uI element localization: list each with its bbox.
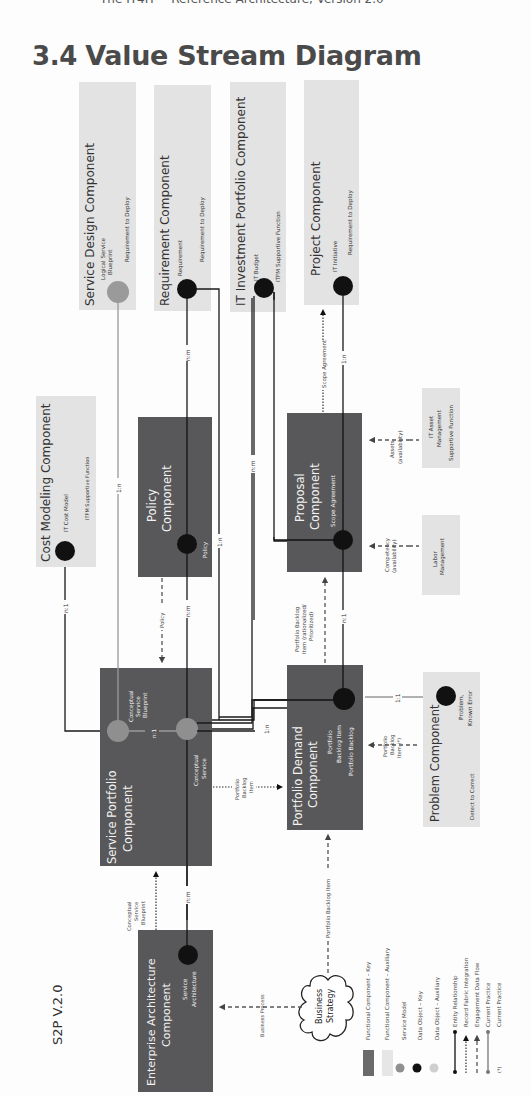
backlog-item-l3: Item — [248, 781, 254, 793]
labor-management-component: Labor Management — [422, 515, 460, 595]
ea-object-l1: Service — [182, 978, 188, 1000]
project-object: IT Initiative — [332, 240, 338, 272]
rel-requirement-policy: n:m — [184, 349, 191, 361]
enterprise-architecture-component[interactable]: Enterprise Architecture Component Servic… — [138, 930, 213, 1092]
it-asset-management-component: IT Asset Management Supportive Function — [422, 388, 460, 468]
problem-value-stream: Detect to Correct — [469, 774, 475, 821]
legend-label-6: Record Fabric Integration — [463, 957, 470, 1027]
portfolio-demand-title-l2: Component — [306, 741, 320, 808]
scope-agreement-node — [333, 530, 353, 550]
it-investment-value-stream: ITFM Supportive Function — [275, 211, 282, 282]
rel-policy: n:m — [184, 605, 191, 617]
legend-functional-aux-swatch — [382, 1050, 393, 1076]
service-portfolio-title-l2: Component — [121, 785, 135, 852]
legend-label-1: Functional Component – Auxiliary — [384, 947, 391, 1040]
requirement-node — [177, 279, 197, 299]
strategy-backlog-label: Portfolio Backlog Item — [325, 879, 332, 938]
rel-service-design: 1:n — [115, 483, 122, 493]
it-investment-title: IT Investment Portfolio Component — [234, 96, 248, 306]
service-design-component: Service Design Component Logical Service… — [79, 82, 136, 310]
pd-object-l1: Portfolio — [327, 730, 333, 754]
legend-service-model-swatch — [396, 1064, 405, 1073]
conceptual-service-blueprint-node — [107, 720, 129, 742]
policy-flow: Policy — [157, 578, 167, 660]
assets-label-l1: Assets — [389, 440, 395, 458]
legend-label-3: Data Object – Key — [417, 990, 424, 1040]
logical-service-blueprint-node — [107, 281, 129, 303]
policy-title-l2: Component — [160, 465, 174, 532]
cost-modeling-component: Cost Modeling Component IT Cost Model IT… — [36, 396, 96, 567]
cost-modeling-object: IT Cost Model — [63, 494, 69, 532]
scope-agreement-flow: Scope Agreement — [319, 312, 328, 412]
competency-label-l1: Competency — [384, 537, 391, 572]
legend-asterisk: (*) — [496, 1067, 502, 1073]
legend-label-2: Service Model — [401, 1001, 407, 1040]
problem-component: Problem Component Problem, Known Error D… — [423, 672, 480, 827]
it-initiative-node — [333, 276, 353, 296]
pd-object-l2: Backlog Item — [336, 725, 343, 763]
conceptual-service-node — [176, 718, 198, 740]
cb-flow-l2: Service — [133, 902, 139, 921]
policy-flow-label: Policy — [159, 612, 166, 628]
ea-title-l2: Component — [160, 982, 173, 1047]
legend-data-aux-swatch — [430, 1064, 439, 1073]
proposal-object: Scope Agreement — [330, 475, 337, 527]
problem-backlog-l2: Backlog — [389, 734, 396, 755]
legend-label-0: Functional Component – Key — [365, 961, 372, 1040]
assets-label-l2: (availability) — [397, 430, 404, 464]
backlog-item-l1: Portfolio — [234, 779, 240, 800]
legend-label-9: Current Practice — [496, 982, 502, 1027]
rel-pd-problem: 1:1 — [394, 693, 401, 703]
value-stream-label: S2P V.2.0 — [50, 984, 65, 1045]
rel-project: 1:n — [340, 354, 347, 364]
service-portfolio-title-l1: Service Portfolio — [105, 771, 119, 864]
rel-pd-sp: 1:n — [263, 724, 270, 734]
it-investment-object: IT Budget — [253, 253, 260, 281]
policy-component[interactable]: Policy Component Policy — [138, 417, 212, 577]
policy-object: Policy — [202, 541, 209, 558]
legend-data-key-swatch — [413, 1064, 422, 1073]
project-title: Project Component — [309, 161, 323, 276]
project-component: Project Component IT Initiative Requirem… — [304, 80, 359, 305]
legend-label-7: Engagement Data Flow — [474, 962, 481, 1027]
business-process-label: Business Process — [259, 994, 265, 1037]
requirement-title: Requirement Component — [158, 155, 172, 306]
cs-object-l2: Service — [201, 758, 207, 779]
scope-agreement-flow-label: Scope Agreement — [321, 340, 328, 388]
value-stream-diagram: Service Design Component Logical Service… — [0, 0, 531, 1096]
problem-title: Problem Component — [428, 704, 442, 822]
legend-label-5: Entity Relationship — [452, 975, 459, 1027]
conceptual-blueprint-flow: Conceptual Service Blueprint — [126, 874, 156, 931]
policy-node — [177, 534, 197, 554]
strategy-backlog-flow: Portfolio Backlog Item — [323, 837, 333, 973]
csb-object-l2: Service — [135, 696, 141, 717]
document-page: The IT4IT™ Reference Architecture, Versi… — [0, 0, 531, 1096]
problem-known-error-node — [436, 686, 456, 706]
problem-backlog-flow: Portfolio Backlog Item (*) — [371, 734, 417, 758]
service-architecture-node — [178, 945, 198, 965]
service-portfolio-component[interactable]: Service Portfolio Component Conceptual S… — [100, 668, 212, 866]
backlog-rationalized-flow: Portfolio Backlog Item (rationalized/ Pr… — [294, 580, 325, 663]
service-design-title: Service Design Component — [83, 143, 97, 306]
rel-proposal-pd: n:1 — [340, 613, 347, 623]
proposal-component[interactable]: Proposal Component Scope Agreement — [274, 413, 362, 572]
csb-object-l3: Blueprint — [142, 692, 149, 718]
it-cost-model-node — [55, 541, 75, 561]
service-design-object-l1: Logical Service — [100, 237, 107, 280]
business-strategy-cloud: Business Strategy — [299, 976, 353, 1041]
legend: (*) Functional Component – Key Functiona… — [363, 947, 502, 1076]
legend-label-4: Data Object – Auxiliary — [434, 976, 441, 1040]
competency-label-l2: (availability) — [391, 539, 398, 573]
requirement-object: Requirement — [177, 239, 184, 276]
sp-internal-relation: n:1 — [151, 729, 157, 738]
project-value-stream: Requirement to Deploy — [347, 190, 354, 255]
problem-object-l1: Problem, — [458, 694, 464, 720]
it-budget-node — [254, 278, 274, 298]
asset-title-l2: Management — [436, 409, 443, 447]
portfolio-demand-component[interactable]: Portfolio Demand Component Portfolio Bac… — [219, 665, 363, 830]
ea-title-l1: Enterprise Architecture — [145, 958, 158, 1086]
backlog-item-l2: Backlog — [241, 777, 248, 798]
legend-label-8: Current Practice — [485, 982, 491, 1027]
ea-object-l2: Architecture — [191, 971, 197, 1007]
asset-title-l1: IT Asset — [428, 415, 434, 438]
